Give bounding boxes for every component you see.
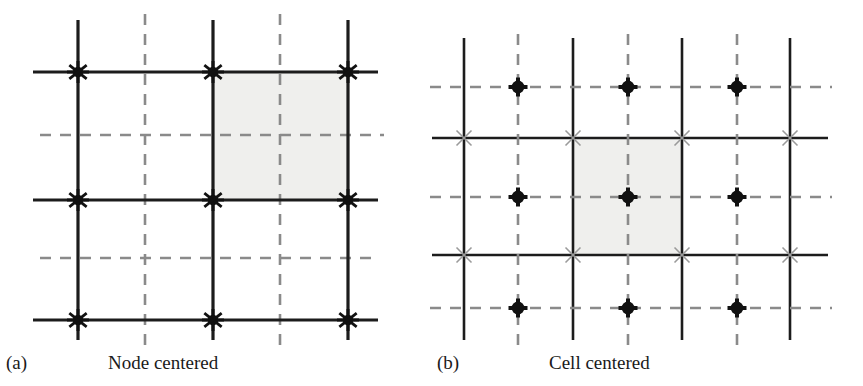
node-marker: [202, 309, 224, 331]
cell-center-marker: [509, 188, 528, 207]
panel-a-title: Node centered: [108, 352, 218, 374]
node-marker: [67, 309, 89, 331]
node-marker: [67, 189, 89, 211]
panel-a-node-centered: [33, 14, 384, 346]
panel-a-label: (a): [6, 352, 27, 374]
cell-center-marker: [728, 188, 747, 207]
cell-center-marker: [619, 78, 638, 97]
grid-comparison-figure: (a) Node centered (b) Cell centered: [0, 0, 863, 386]
node-marker: [337, 189, 359, 211]
node-marker: [337, 309, 359, 331]
panel-b-cell-centered: [430, 34, 832, 348]
node-marker: [67, 61, 89, 83]
cell-center-marker: [728, 299, 747, 318]
panel-b-label: (b): [437, 352, 459, 374]
node-marker: [202, 189, 224, 211]
node-marker: [202, 61, 224, 83]
figure-canvas: [0, 0, 863, 386]
node-marker: [337, 61, 359, 83]
panel-b-title: Cell centered: [549, 352, 650, 374]
cell-center-marker: [509, 299, 528, 318]
cell-center-marker: [728, 78, 747, 97]
cell-center-marker: [619, 299, 638, 318]
cell-center-marker: [509, 78, 528, 97]
